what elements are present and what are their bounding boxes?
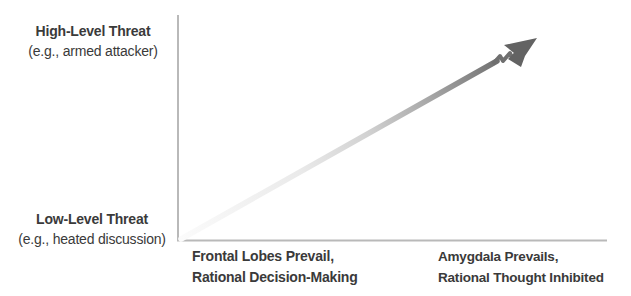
- x-axis-left-label: Frontal Lobes Prevail, Rational Decision…: [192, 246, 358, 288]
- x-axis-left-label-line2: Rational Decision-Making: [192, 267, 358, 288]
- x-axis-left-label-line1: Frontal Lobes Prevail,: [192, 246, 358, 267]
- y-axis-high-label-line1: High-Level Threat: [10, 21, 176, 41]
- y-axis-high-label: High-Level Threat (e.g., armed attacker): [10, 21, 176, 61]
- x-axis-right-label-line1: Amygdala Prevails,: [438, 246, 604, 267]
- y-axis-low-label-line1: Low-Level Threat: [6, 209, 178, 229]
- y-axis-low-label: Low-Level Threat (e.g., heated discussio…: [6, 209, 178, 249]
- y-axis-low-label-line2: (e.g., heated discussion): [6, 229, 178, 249]
- x-axis-right-label-line2: Rational Thought Inhibited: [438, 267, 604, 288]
- x-axis-right-label: Amygdala Prevails, Rational Thought Inhi…: [438, 246, 604, 288]
- y-axis-high-label-line2: (e.g., armed attacker): [10, 41, 176, 61]
- trend-arrow-shaft: [181, 61, 497, 239]
- threat-response-diagram: High-Level Threat (e.g., armed attacker)…: [0, 0, 631, 296]
